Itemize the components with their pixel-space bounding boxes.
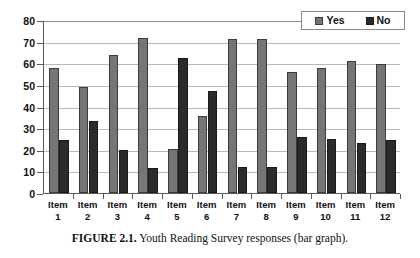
legend-label-no: No <box>377 15 391 26</box>
bar-group <box>133 21 163 193</box>
bar-no-item-9 <box>297 137 307 193</box>
y-axis-tick-label: 80 <box>3 16 35 26</box>
bar-yes-item-10 <box>317 68 327 193</box>
plot-area <box>43 21 400 194</box>
figure-container: 01020304050607080 Item1Item2Item3Item4It… <box>0 0 420 258</box>
bar-yes-item-3 <box>109 55 119 193</box>
y-axis-tick-label: 50 <box>3 81 35 91</box>
legend-label-yes: Yes <box>326 15 344 26</box>
chart-legend: YesNo <box>301 11 405 30</box>
bar-no-item-12 <box>386 140 396 193</box>
figure-caption-text: Youth Reading Survey responses (bar grap… <box>137 232 348 244</box>
bar-no-item-8 <box>267 167 277 193</box>
y-axis-tick-label: 20 <box>3 146 35 156</box>
legend-swatch-no <box>366 17 374 25</box>
bar-group <box>104 21 134 193</box>
bar-group <box>44 21 74 193</box>
bar-yes-item-6 <box>198 116 208 193</box>
bar-group <box>223 21 253 193</box>
bar-no-item-3 <box>119 150 129 193</box>
bar-no-item-6 <box>208 91 218 193</box>
bar-yes-item-4 <box>138 38 148 193</box>
legend-item-yes[interactable]: Yes <box>315 15 344 26</box>
bar-no-item-4 <box>148 168 158 193</box>
bar-yes-item-2 <box>79 87 89 193</box>
bar-no-item-1 <box>59 140 69 193</box>
bar-group <box>371 21 401 193</box>
legend-item-no[interactable]: No <box>366 15 391 26</box>
y-axis-tick-label: 40 <box>3 103 35 113</box>
legend-swatch-yes <box>315 17 323 25</box>
bar-no-item-2 <box>89 121 99 193</box>
x-axis-label-line: Item <box>368 199 402 211</box>
bar-no-item-11 <box>357 143 367 193</box>
bar-group <box>342 21 372 193</box>
x-axis-label-line: 12 <box>368 211 402 223</box>
y-axis-tick-label: 0 <box>3 189 35 199</box>
bar-chart: 01020304050607080 Item1Item2Item3Item4It… <box>0 0 420 226</box>
bar-yes-item-7 <box>228 39 238 193</box>
y-axis-tick-label: 10 <box>3 167 35 177</box>
bar-no-item-10 <box>327 139 337 193</box>
bar-group <box>74 21 104 193</box>
bar-no-item-5 <box>178 58 188 193</box>
bar-yes-item-11 <box>347 61 357 193</box>
y-axis-tick-label: 30 <box>3 124 35 134</box>
figure-number: FIGURE 2.1. <box>72 232 137 244</box>
bar-yes-item-9 <box>287 72 297 193</box>
bar-yes-item-12 <box>376 64 386 193</box>
y-axis-tick-label: 60 <box>3 59 35 69</box>
bar-yes-item-5 <box>168 149 178 193</box>
y-axis-tick-mark <box>37 194 43 195</box>
y-axis-tick-label: 70 <box>3 38 35 48</box>
x-axis-tick-label-item-12: Item12 <box>368 199 402 222</box>
bar-group <box>193 21 223 193</box>
bar-no-item-7 <box>238 167 248 193</box>
bar-group <box>163 21 193 193</box>
bar-group <box>282 21 312 193</box>
bar-group <box>252 21 282 193</box>
bar-yes-item-8 <box>257 39 267 193</box>
bar-group <box>312 21 342 193</box>
figure-caption: FIGURE 2.1. Youth Reading Survey respons… <box>0 231 420 245</box>
bar-yes-item-1 <box>49 68 59 193</box>
